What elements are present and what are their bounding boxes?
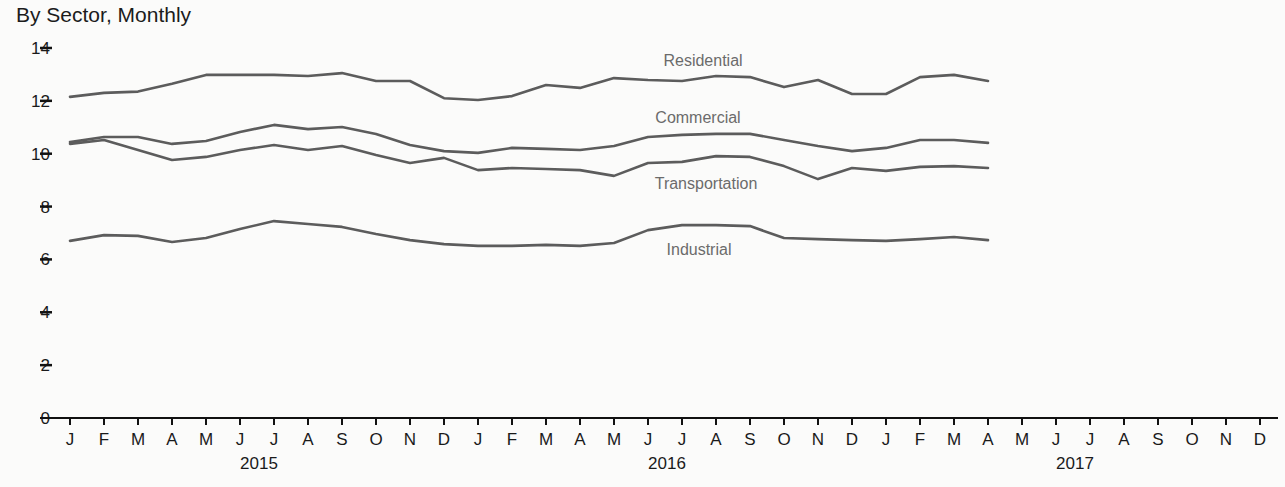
x-month-label: F [915, 430, 925, 449]
x-month-label: O [369, 430, 382, 449]
x-month-label: M [607, 430, 621, 449]
x-month-label: A [574, 430, 586, 449]
series-line-industrial [70, 221, 988, 246]
x-month-label: A [710, 430, 722, 449]
x-year-label: 2017 [1056, 454, 1094, 473]
x-month-label: J [66, 430, 75, 449]
x-month-label: M [539, 430, 553, 449]
x-month-label: D [438, 430, 450, 449]
x-month-label: J [236, 430, 245, 449]
x-month-label: D [846, 430, 858, 449]
x-month-label: S [336, 430, 347, 449]
series-label-commercial: Commercial [655, 109, 740, 126]
x-month-label: D [1254, 430, 1266, 449]
x-year-label: 2015 [240, 454, 278, 473]
x-month-label: F [507, 430, 517, 449]
x-month-label: N [1220, 430, 1232, 449]
x-month-label: A [166, 430, 178, 449]
y-axis: 02468101214 [31, 39, 52, 428]
x-month-label: J [1052, 430, 1061, 449]
line-chart: 02468101214 JFMAMJJASONDJFMAMJJASONDJFMA… [0, 0, 1285, 487]
series-line-commercial [70, 125, 988, 153]
x-month-label: F [99, 430, 109, 449]
x-month-label: J [270, 430, 279, 449]
x-month-label: O [777, 430, 790, 449]
x-month-label: S [744, 430, 755, 449]
x-month-label: S [1152, 430, 1163, 449]
x-month-label: A [982, 430, 994, 449]
series-label-transportation: Transportation [655, 175, 758, 192]
x-month-label: N [404, 430, 416, 449]
x-year-label: 2016 [648, 454, 686, 473]
series-label-residential: Residential [663, 52, 742, 69]
x-month-label: J [644, 430, 653, 449]
x-month-label: J [882, 430, 891, 449]
x-month-label: M [131, 430, 145, 449]
x-month-label: A [302, 430, 314, 449]
x-month-label: A [1118, 430, 1130, 449]
x-month-label: M [199, 430, 213, 449]
x-month-label: J [678, 430, 687, 449]
x-month-label: J [474, 430, 483, 449]
x-month-label: J [1086, 430, 1095, 449]
series-label-industrial: Industrial [667, 241, 732, 258]
x-month-label: N [812, 430, 824, 449]
series-line-residential [70, 73, 988, 100]
x-axis: JFMAMJJASONDJFMAMJJASONDJFMAMJJASOND2015… [40, 418, 1278, 473]
series-line-transportation [70, 140, 988, 179]
series-lines [70, 73, 988, 246]
x-month-label: O [1185, 430, 1198, 449]
x-month-label: M [947, 430, 961, 449]
x-month-label: M [1015, 430, 1029, 449]
